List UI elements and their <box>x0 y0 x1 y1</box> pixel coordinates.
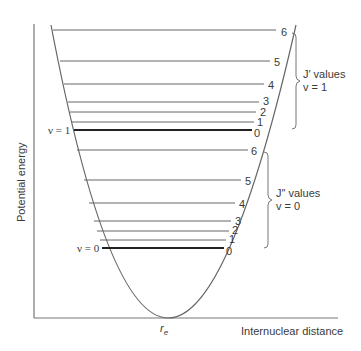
j-prime-values-label: J′ values <box>303 68 346 80</box>
svg-text:0: 0 <box>226 245 232 257</box>
svg-text:5: 5 <box>274 56 280 68</box>
levels-v1 <box>53 30 276 130</box>
re-label: re <box>160 322 169 337</box>
y-axis-label: Potential energy <box>15 142 27 222</box>
potential-curve <box>51 25 296 318</box>
svg-text:4: 4 <box>239 198 245 210</box>
svg-text:1: 1 <box>229 233 235 245</box>
potential-energy-diagram: ν = 1 ν = 0 6 5 4 3 2 1 0 6 5 4 3 2 1 0 … <box>0 0 361 351</box>
x-axis-label: Internuclear distance <box>241 325 343 337</box>
v1-bracket-label: v = 1 <box>303 81 327 93</box>
brace-lower <box>264 152 272 248</box>
svg-text:4: 4 <box>268 79 274 91</box>
v1-label: ν = 1 <box>48 124 70 136</box>
levels-v0 <box>77 150 248 248</box>
svg-text:6: 6 <box>251 145 257 157</box>
j-double-prime-labels: 6 5 4 3 2 1 0 <box>226 145 257 257</box>
brace-upper <box>292 33 300 129</box>
svg-text:6: 6 <box>281 26 287 38</box>
v0-bracket-label: v = 0 <box>276 200 300 212</box>
v0-label: ν = 0 <box>77 242 100 254</box>
svg-text:5: 5 <box>245 175 251 187</box>
j-double-prime-values-label: J″ values <box>276 187 321 199</box>
svg-text:0: 0 <box>254 127 260 139</box>
